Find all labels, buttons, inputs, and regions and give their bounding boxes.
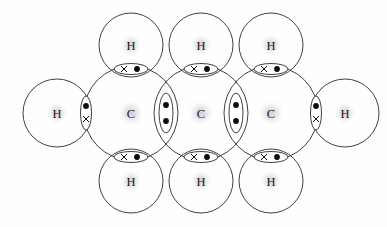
electron-dot-b-c2-h2-1 [204, 66, 210, 72]
atom-label-h7: H [52, 107, 61, 121]
bond-lens-b-c2-h2 [184, 64, 218, 75]
bond-lens-b-c3-h6 [254, 152, 288, 163]
atom-label-h8: H [340, 107, 349, 121]
electron-dot-b-c2-c3-0 [233, 102, 239, 108]
atom-label-h2: H [196, 39, 205, 53]
electron-dot-b-h7-c1-0 [83, 103, 89, 109]
electron-dot-b-c1-h1-1 [134, 66, 140, 72]
bond-lens-b-c3-h8 [311, 96, 322, 130]
electron-dot-b-c2-c3-1 [233, 118, 239, 124]
bond-lens-b-c1-h1 [114, 64, 148, 75]
atom-symbol-labels: CCCHHHHHHHH [52, 39, 349, 189]
electron-dot-b-c1-c2-0 [163, 102, 169, 108]
bond-lens-b-c2-h5 [184, 152, 218, 163]
bond-lens-b-c2-c3 [229, 93, 243, 133]
atom-label-h4: H [126, 175, 135, 189]
bond-lens-b-c3-h3 [254, 64, 288, 75]
bond-lens-b-c1-h4 [114, 152, 148, 163]
atom-label-c3: C [267, 107, 275, 121]
electron-dot-b-c3-h6-1 [274, 154, 280, 160]
diagram-canvas: CCCHHHHHHHH [0, 0, 387, 227]
atom-label-c2: C [197, 107, 205, 121]
electron-dot-b-c3-h8-0 [313, 103, 319, 109]
electron-dot-b-c2-h5-1 [204, 154, 210, 160]
atom-label-c1: C [127, 107, 135, 121]
bond-lens-b-c1-c2 [159, 93, 173, 133]
electron-dot-b-c3-h3-1 [274, 66, 280, 72]
lewis-structure-svg: CCCHHHHHHHH [0, 0, 387, 227]
electron-dot-b-c1-c2-1 [163, 118, 169, 124]
electron-dot-b-c1-h4-1 [134, 154, 140, 160]
atom-label-h6: H [266, 175, 275, 189]
atom-label-h1: H [126, 39, 135, 53]
bond-lens-b-h7-c1 [81, 96, 92, 130]
atom-label-h3: H [266, 39, 275, 53]
atom-label-h5: H [196, 175, 205, 189]
